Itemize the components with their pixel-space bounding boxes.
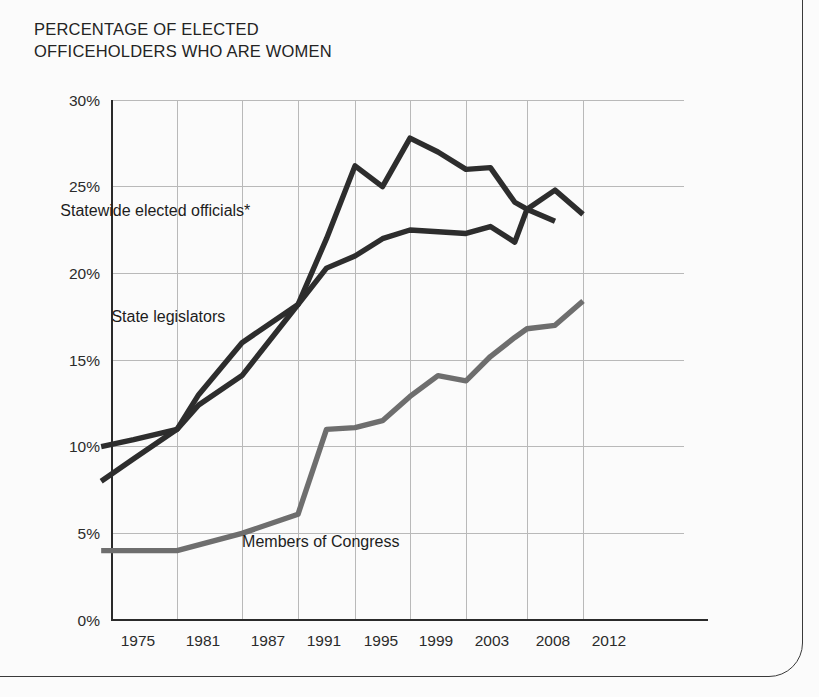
series-line: [101, 301, 583, 551]
x-tick-label: 1981: [186, 632, 220, 649]
chart-figure: 0%5%10%15%20%25%30% 19751981198719911995…: [0, 0, 819, 697]
y-tick-label: 10%: [69, 438, 100, 455]
series-line: [101, 138, 555, 447]
y-axis-tick-labels: 0%5%10%15%20%25%30%: [69, 92, 100, 629]
x-tick-label: 1999: [419, 632, 453, 649]
y-tick-label: 15%: [69, 352, 100, 369]
series-lines-group: [101, 138, 583, 551]
x-tick-label: 2012: [592, 632, 626, 649]
y-tick-label: 25%: [69, 178, 100, 195]
x-axis-tick-labels: 197519811987199119951999200320082012: [121, 632, 626, 649]
x-tick-label: 1995: [364, 632, 398, 649]
x-tick-label: 2008: [536, 632, 570, 649]
y-tick-label: 30%: [69, 92, 100, 109]
x-tick-label: 1987: [251, 632, 285, 649]
y-tick-label: 5%: [78, 525, 101, 542]
line-chart: 0%5%10%15%20%25%30% 19751981198719911995…: [0, 0, 819, 697]
y-tick-label: 20%: [69, 265, 100, 282]
y-tick-label: 0%: [78, 612, 101, 629]
series-label: Statewide elected officials*: [60, 202, 250, 219]
series-label: Members of Congress: [242, 533, 399, 550]
x-tick-label: 1991: [307, 632, 341, 649]
series-line: [101, 190, 583, 481]
x-tick-label: 2003: [475, 632, 509, 649]
series-label: State legislators: [111, 308, 225, 325]
x-tick-label: 1975: [121, 632, 155, 649]
